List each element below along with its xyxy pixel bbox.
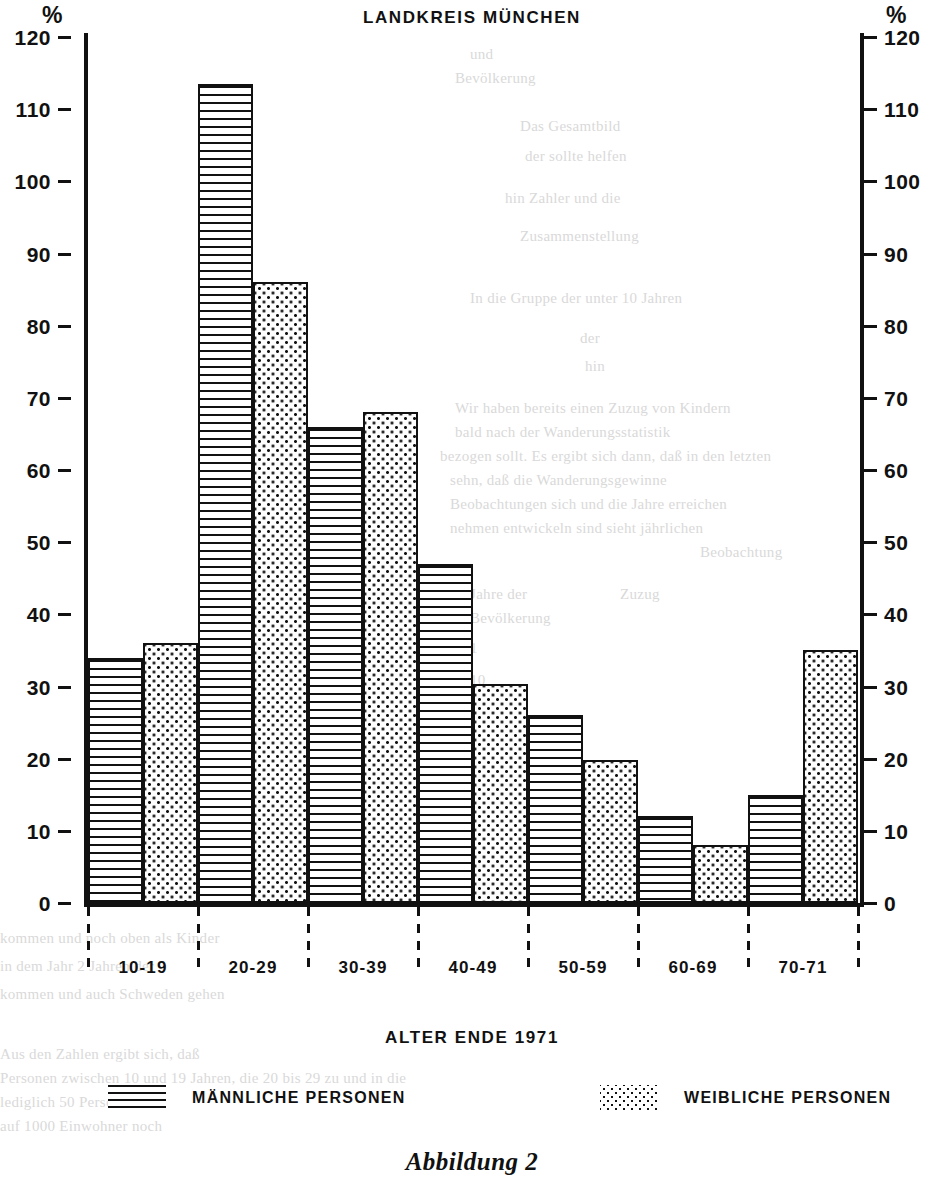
legend-item-female: WEIBLICHE PERSONEN [600,1085,891,1111]
y-tick-mark [58,541,71,544]
y-tick-mark [864,686,877,689]
y-tick-label: 100 [14,170,51,194]
y-tick-label: 100 [884,170,921,194]
y-tick-label: 110 [884,98,919,122]
y-tick-label: 0 [884,892,896,916]
y-tick-label: 70 [27,387,51,411]
bar-female-20-29 [253,282,308,903]
y-tick-label: 0 [39,892,51,916]
y-tick-label: 50 [27,531,51,555]
y-tick-mark [864,902,877,905]
y-tick-label: 40 [27,603,51,627]
bar-female-40-49 [473,684,528,903]
y-tick-mark [864,758,877,761]
y-tick-mark [864,830,877,833]
bar-male-70-71 [748,795,803,903]
y-tick-mark [864,325,877,328]
y-tick-label: 120 [14,26,51,50]
legend-label-female: WEIBLICHE PERSONEN [684,1089,891,1107]
bar-female-60-69 [693,845,748,903]
y-tick-mark [58,902,71,905]
y-tick-label: 40 [884,603,908,627]
x-category-label-20-29: 20-29 [198,958,308,978]
legend-label-male: MÄNNLICHE PERSONEN [192,1089,406,1107]
bar-female-30-39 [363,412,418,903]
x-category-label-30-39: 30-39 [308,958,418,978]
y-tick-label: 30 [27,676,51,700]
legend-swatch-male-icon [108,1085,166,1111]
y-tick-mark [864,108,877,111]
y-tick-label: 90 [884,243,908,267]
bar-male-40-49 [418,564,473,903]
bar-female-10-19 [143,643,198,903]
y-tick-mark [58,686,71,689]
x-axis-title: ALTER ENDE 1971 [0,1028,944,1048]
y-tick-label: 60 [884,459,908,483]
y-tick-mark [58,469,71,472]
y-tick-label: 110 [16,98,51,122]
figure-caption: Abbildung 2 [0,1148,944,1176]
bar-male-10-19 [88,658,143,903]
y-tick-mark [58,180,71,183]
legend-swatch-female-icon [600,1085,658,1111]
x-category-label-50-59: 50-59 [528,958,638,978]
x-category-label-40-49: 40-49 [418,958,528,978]
y-tick-mark [58,36,71,39]
y-tick-label: 20 [884,748,908,772]
y-tick-label: 50 [884,531,908,555]
y-axis-unit-right: % [886,2,906,29]
bar-female-50-59 [583,760,638,903]
bar-male-30-39 [308,427,363,903]
y-tick-mark [58,325,71,328]
x-category-label-60-69: 60-69 [638,958,748,978]
x-category-label-10-19: 10-19 [88,958,198,978]
y-axis-unit-left: % [42,2,62,29]
legend-item-male: MÄNNLICHE PERSONEN [108,1085,406,1111]
bar-female-70-71 [803,650,858,903]
y-tick-mark [58,253,71,256]
bar-male-60-69 [638,816,693,903]
y-tick-mark [58,613,71,616]
y-tick-label: 10 [884,820,908,844]
y-tick-label: 10 [27,820,51,844]
y-tick-mark [864,180,877,183]
y-tick-label: 120 [884,26,921,50]
chart-title: LANDKREIS MÜNCHEN [0,8,944,28]
bar-male-20-29 [198,84,253,903]
y-tick-mark [864,613,877,616]
y-tick-label: 60 [27,459,51,483]
y-tick-mark [58,397,71,400]
y-tick-mark [864,469,877,472]
y-tick-label: 30 [884,676,908,700]
y-tick-label: 80 [884,315,908,339]
y-tick-label: 70 [884,387,908,411]
bar-chart-figure: LANDKREIS MÜNCHEN % % 010203040506070809… [0,0,944,1185]
y-tick-mark [864,36,877,39]
y-tick-label: 90 [27,243,51,267]
y-tick-mark [864,397,877,400]
x-category-label-70-71: 70-71 [748,958,858,978]
y-tick-mark [864,541,877,544]
y-tick-mark [58,830,71,833]
y-tick-label: 80 [27,315,51,339]
y-tick-mark [58,758,71,761]
bar-male-50-59 [528,715,583,903]
y-tick-mark [58,108,71,111]
y-tick-label: 20 [27,748,51,772]
y-tick-mark [864,253,877,256]
